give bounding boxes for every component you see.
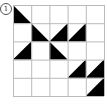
black-triangle [68,23,86,41]
black-triangle [49,23,67,41]
black-triangle [13,5,31,23]
black-triangle [86,60,104,78]
black-triangle [86,78,104,96]
black-triangle [31,23,49,41]
black-triangle [68,60,86,78]
grid-canvas [13,5,105,99]
black-triangle [13,41,31,59]
black-triangle [49,41,67,59]
problem-number-label: 1 [0,3,12,15]
triangle-grid [13,5,105,99]
